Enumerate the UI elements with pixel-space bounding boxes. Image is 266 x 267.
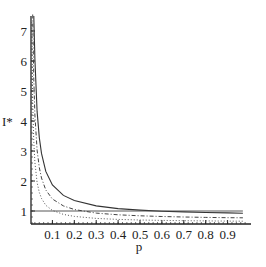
series-dash-dot xyxy=(33,15,243,218)
x-tick-label: 0.9 xyxy=(219,227,235,242)
y-tick-label: 7 xyxy=(21,24,28,39)
y-tick-label: 6 xyxy=(21,54,28,69)
series-solid xyxy=(34,16,243,213)
x-tick-label: 0.3 xyxy=(88,227,104,242)
series-dotted xyxy=(32,22,243,221)
y-axis-label: I* xyxy=(2,114,13,129)
x-tick-label: 0.8 xyxy=(198,227,214,242)
x-tick-label: 0.6 xyxy=(154,227,171,242)
x-tick-label: 0.2 xyxy=(66,227,82,242)
x-tick-label: 0.7 xyxy=(176,227,193,242)
series-layer xyxy=(31,15,243,222)
y-tick-label: 5 xyxy=(21,84,28,99)
y-tick-label: 3 xyxy=(21,144,28,159)
x-axis-label: p xyxy=(136,239,143,254)
y-tick-label: 4 xyxy=(21,114,28,129)
x-tick-label: 0.1 xyxy=(44,227,60,242)
x-tick-label: 0.4 xyxy=(110,227,127,242)
y-tick-label: 2 xyxy=(21,174,28,189)
chart-plot: 0.10.20.30.40.50.60.70.80.91234567I*p xyxy=(0,0,266,267)
axes xyxy=(31,16,251,224)
y-tick-label: 1 xyxy=(21,204,28,219)
